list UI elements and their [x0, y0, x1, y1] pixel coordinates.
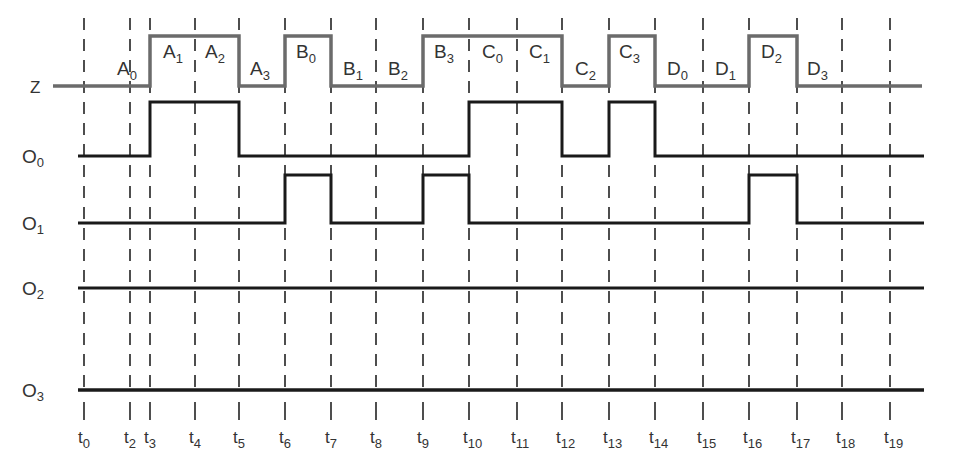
time-label-t4: t4: [189, 428, 201, 451]
time-label-t7: t7: [325, 428, 337, 451]
signal-label-o1: O1: [22, 213, 44, 237]
z-segment-b3: B3: [434, 41, 454, 66]
time-label-t18: t18: [836, 428, 855, 451]
time-label-t10: t10: [463, 428, 482, 451]
time-label-t2: t2: [124, 428, 136, 451]
time-label-t11: t11: [511, 428, 529, 451]
z-segment-c0: C0: [482, 41, 503, 66]
signal-label-o3: O3: [22, 380, 44, 404]
time-label-t16: t16: [743, 428, 762, 451]
time-label-t3: t3: [144, 428, 156, 451]
signal-labels: ZO0O1O2O3: [22, 78, 44, 404]
time-label-t12: t12: [556, 428, 575, 451]
signal-label-z: Z: [30, 78, 40, 97]
time-labels: t0t2t3t4t5t6t7t8t9t10t11t12t13t14t15t16t…: [78, 428, 903, 451]
z-segment-b2: B2: [388, 58, 408, 83]
z-segment-a2: A2: [205, 41, 225, 66]
z-segment-a0: A0: [117, 58, 137, 83]
z-segment-c3: C3: [619, 41, 640, 66]
z-segment-d1: D1: [715, 58, 736, 83]
time-label-t6: t6: [279, 428, 291, 451]
z-segment-a3: A3: [250, 58, 270, 83]
z-segment-c2: C2: [575, 58, 596, 83]
time-label-t9: t9: [417, 428, 429, 451]
time-label-t15: t15: [697, 428, 716, 451]
z-segment-a1: A1: [163, 41, 183, 66]
z-segment-b0: B0: [296, 41, 316, 66]
time-gridlines: [84, 18, 890, 396]
z-segment-b1: B1: [343, 58, 363, 83]
z-segment-d2: D2: [761, 41, 782, 66]
waveform-o1: [78, 175, 924, 223]
signal-label-o0: O0: [22, 146, 44, 170]
timing-diagram: ZO0O1O2O3 A0A1A2A3B0B1B2B3C0C1C2C3D0D1D2…: [0, 0, 962, 469]
time-label-t0: t0: [78, 428, 90, 451]
time-label-t13: t13: [603, 428, 622, 451]
time-label-t14: t14: [649, 428, 668, 451]
signal-waveforms: [53, 36, 924, 390]
time-label-t8: t8: [370, 428, 382, 451]
time-label-t17: t17: [791, 428, 810, 451]
z-segment-d3: D3: [807, 58, 828, 83]
z-segment-c1: C1: [529, 41, 550, 66]
z-segment-d0: D0: [667, 58, 688, 83]
time-label-t5: t5: [233, 428, 245, 451]
z-segment-labels: A0A1A2A3B0B1B2B3C0C1C2C3D0D1D2D3: [117, 41, 828, 83]
signal-label-o2: O2: [22, 278, 44, 302]
time-label-t19: t19: [884, 428, 903, 451]
time-ticks: [84, 402, 890, 420]
